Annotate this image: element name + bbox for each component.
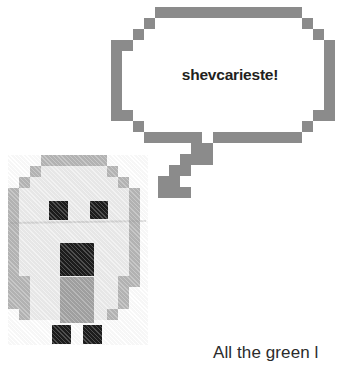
bubble-fill — [122, 33, 323, 44]
bubble-tail — [202, 143, 213, 154]
right-eye — [90, 201, 108, 219]
speech-bubble-text: shevcarieste! — [150, 66, 310, 84]
creature-outline — [118, 276, 140, 287]
creature-leg — [60, 277, 94, 323]
creature-outline — [19, 177, 30, 188]
bubble-fill — [133, 22, 312, 33]
creature-outline — [8, 287, 30, 309]
creature-outline — [107, 166, 118, 177]
bubble-tail — [191, 143, 202, 154]
bubble-fill — [122, 110, 323, 121]
creature-outline — [118, 177, 129, 188]
creature-outline — [129, 188, 140, 199]
bubble-border-corner-tl — [133, 29, 144, 40]
creature-outline — [129, 221, 140, 243]
bubble-border-bottom — [155, 132, 202, 143]
bubble-tail — [191, 154, 202, 165]
bubble-tail — [180, 154, 191, 165]
bubble-border-corner-br — [302, 121, 313, 132]
creature-outline — [129, 243, 140, 276]
bubble-tail — [158, 187, 191, 198]
bubble-border-corner-bl — [144, 132, 155, 143]
creature-body — [30, 309, 60, 320]
bubble-border-corner-tl — [144, 18, 155, 29]
creature-body — [19, 199, 129, 221]
bubble-border-corner-tr — [313, 29, 324, 40]
creature-outline — [8, 243, 19, 276]
creature-body — [19, 188, 129, 199]
bubble-border-left — [111, 40, 122, 121]
creature-body — [30, 177, 118, 188]
creature-outline — [118, 287, 129, 309]
bubble-border-corner-br — [313, 110, 324, 121]
illustration-canvas: shevcarieste! — [0, 0, 340, 365]
bubble-border-corner-bl — [122, 110, 133, 121]
creature-outline — [41, 155, 107, 166]
left-eye — [49, 201, 68, 220]
bubble-border-corner-br — [213, 132, 302, 143]
creature-outline — [129, 199, 140, 221]
bubble-border-top — [155, 7, 302, 18]
creature-outline — [8, 276, 30, 287]
creature-outline — [19, 309, 30, 320]
bubble-tail — [169, 176, 180, 187]
bottom-caption: All the green l — [213, 343, 318, 363]
creature-body — [19, 221, 129, 243]
bubble-border-right — [324, 40, 335, 121]
pixel-creature — [8, 155, 148, 345]
bubble-border-corner-bl — [133, 121, 144, 132]
right-foot — [83, 325, 102, 344]
creature-outline — [8, 199, 19, 221]
bubble-fill — [133, 121, 312, 132]
creature-outline — [107, 309, 118, 320]
mouth — [60, 243, 94, 277]
bubble-tail — [180, 165, 191, 176]
bubble-border-corner-tr — [302, 18, 313, 29]
creature-body — [41, 166, 107, 177]
bubble-tail — [202, 154, 213, 165]
bubble-border-corner-tl — [122, 40, 133, 51]
creature-outline — [8, 221, 19, 243]
creature-outline — [30, 166, 41, 177]
creature-outline — [8, 188, 19, 199]
bubble-tail — [169, 165, 180, 176]
bubble-tail — [158, 176, 169, 187]
left-foot — [52, 325, 71, 344]
